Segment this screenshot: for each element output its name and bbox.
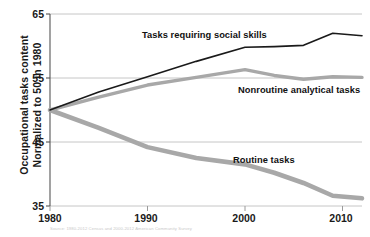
y-tick-label: 45: [18, 136, 44, 148]
y-axis-tick-labels: 65 55 45 35: [18, 0, 44, 237]
series-label-routine: Routine tasks: [233, 155, 295, 165]
y-tick-label: 65: [18, 8, 44, 20]
chart-container: Occupational tasks content Normalized to…: [0, 0, 370, 237]
series-label-nonroutine-analytical: Nonroutine analytical tasks: [238, 85, 360, 95]
x-tick-label: 2000: [232, 212, 255, 224]
x-tick-label: 1980: [38, 212, 61, 224]
series-label-social-skills: Tasks requiring social skills: [142, 30, 267, 40]
y-tick-label: 55: [18, 72, 44, 84]
y-tick-label: 35: [18, 200, 44, 212]
series-line-routine-tasks: [50, 110, 362, 198]
x-tick-label: 2010: [329, 212, 352, 224]
chart-footnote: Source: 1980-2012 Census and 2000-2012 A…: [50, 226, 192, 231]
x-tick-label: 1990: [134, 212, 157, 224]
